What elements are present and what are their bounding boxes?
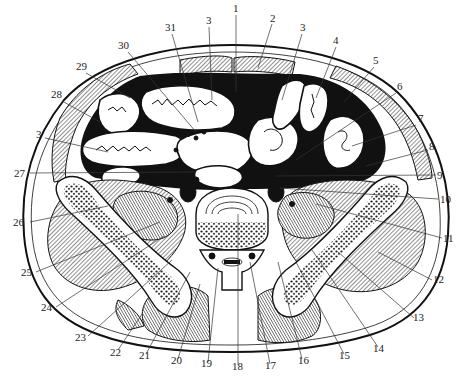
- label-9: 9: [437, 169, 443, 181]
- label-3c: 3: [36, 128, 42, 140]
- label-7: 7: [418, 112, 424, 124]
- label-27: 27: [14, 167, 26, 179]
- label-4: 4: [333, 34, 339, 46]
- label-20: 20: [171, 354, 183, 366]
- label-11: 11: [443, 232, 454, 244]
- label-13: 13: [413, 311, 425, 323]
- label-5: 5: [373, 54, 379, 66]
- label-25: 25: [21, 266, 33, 278]
- label-21: 21: [139, 349, 150, 361]
- label-23: 23: [75, 331, 87, 343]
- label-8: 8: [429, 140, 435, 152]
- label-22: 22: [110, 346, 121, 358]
- label-3a: 3: [206, 14, 212, 26]
- label-31: 31: [165, 21, 176, 33]
- label-17: 17: [265, 359, 277, 371]
- label-29: 29: [76, 60, 88, 72]
- label-28: 28: [51, 88, 63, 100]
- label-19: 19: [201, 357, 213, 369]
- label-12: 12: [433, 273, 444, 285]
- label-18: 18: [232, 360, 244, 372]
- label-24: 24: [41, 301, 53, 313]
- label-14: 14: [373, 342, 385, 354]
- label-26: 26: [13, 216, 25, 228]
- label-30: 30: [118, 39, 130, 51]
- label-10: 10: [440, 193, 452, 205]
- label-15: 15: [339, 349, 351, 361]
- label-16: 16: [298, 354, 310, 366]
- label-6: 6: [397, 80, 403, 92]
- label-3b: 3: [300, 21, 306, 33]
- label-2: 2: [270, 12, 276, 24]
- anatomical-cross-section-figure: 1 2 3 3 31 30 4 5 29 28 6 7 3 8 27 9 10 …: [0, 0, 464, 381]
- label-1: 1: [233, 2, 239, 14]
